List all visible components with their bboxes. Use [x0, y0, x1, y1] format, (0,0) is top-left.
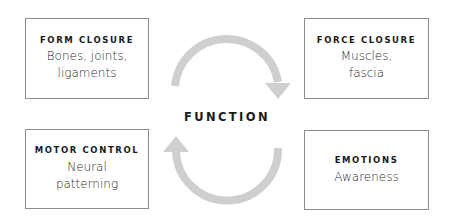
function-label: FUNCTION [150, 110, 304, 124]
motor-control-line-2: patterning [56, 176, 118, 193]
arrowhead-up-icon [163, 136, 189, 152]
motor-control-title: MOTOR CONTROL [35, 145, 140, 155]
form-closure-body: Bones, joints, ligaments [47, 48, 127, 82]
form-closure-title: FORM CLOSURE [40, 35, 134, 45]
arrowhead-down-icon [265, 83, 291, 99]
motor-control-box: MOTOR CONTROL Neural patterning [25, 129, 149, 209]
force-closure-line-2: fascia [341, 65, 393, 82]
form-closure-box: FORM CLOSURE Bones, joints, ligaments [25, 18, 149, 99]
form-closure-line-2: ligaments [47, 65, 127, 82]
force-closure-box: FORCE CLOSURE Muscles, fascia [304, 18, 429, 99]
emotions-title: EMOTIONS [335, 155, 399, 165]
top-arrow [175, 39, 291, 99]
form-closure-line-1: Bones, joints, [47, 48, 127, 65]
force-closure-line-1: Muscles, [341, 48, 393, 65]
emotions-box: EMOTIONS Awareness [304, 130, 429, 210]
force-closure-body: Muscles, fascia [341, 48, 393, 82]
motor-control-line-1: Neural [56, 159, 118, 176]
emotions-body: Awareness [334, 169, 398, 186]
force-closure-title: FORCE CLOSURE [317, 35, 416, 45]
emotions-line-1: Awareness [334, 169, 398, 186]
bottom-arrow [163, 136, 278, 201]
motor-control-body: Neural patterning [56, 159, 118, 193]
